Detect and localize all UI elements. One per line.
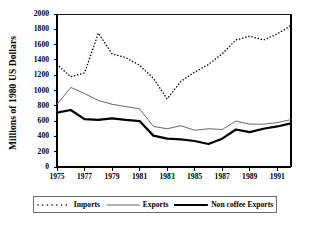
legend-swatch-dotted-icon [37, 201, 71, 209]
series-line-imports [57, 25, 291, 98]
y-tick-label-2000: 2000 [23, 10, 49, 18]
y-tick-label-1600: 1600 [23, 41, 49, 49]
legend-swatch-thin-solid-icon [106, 201, 140, 209]
y-tick-label-1200: 1200 [23, 71, 49, 79]
y-axis-title: Millions of 1980 US Dollars [8, 13, 18, 173]
chart-legend: ImportsExportsNon coffee Exports [33, 196, 277, 213]
y-tick-label-1400: 1400 [23, 56, 49, 64]
legend-entry-imports: Imports [37, 200, 100, 209]
y-tick-label-600: 600 [23, 117, 49, 125]
data-series-layer [57, 25, 291, 144]
legend-entry-exports: Exports [106, 200, 169, 209]
axis-lines [57, 14, 291, 167]
legend-label: Exports [143, 200, 169, 209]
x-tick-label-1991: 1991 [260, 173, 294, 181]
axis-ticks [54, 14, 278, 171]
legend-label: Non coffee Exports [211, 200, 273, 209]
plot-area [0, 0, 310, 226]
legend-entry-non-coffee-exports: Non coffee Exports [174, 200, 273, 209]
y-tick-label-400: 400 [23, 132, 49, 140]
chart-figure: Millions of 1980 US Dollars 020040060080… [0, 0, 310, 226]
y-tick-label-800: 800 [23, 102, 49, 110]
legend-label: Imports [74, 200, 100, 209]
y-tick-label-1000: 1000 [23, 87, 49, 95]
legend-swatch-thick-solid-icon [174, 201, 208, 209]
series-line-exports [57, 87, 291, 130]
y-tick-label-0: 0 [23, 163, 49, 171]
y-tick-label-1800: 1800 [23, 25, 49, 33]
y-tick-label-200: 200 [23, 148, 49, 156]
